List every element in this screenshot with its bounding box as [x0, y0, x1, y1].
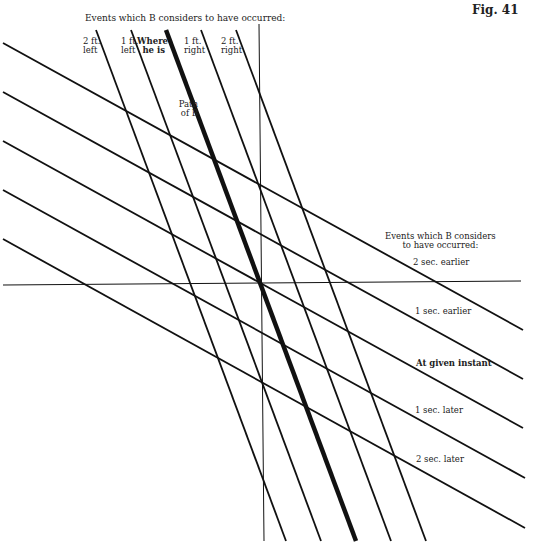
spacetime-diagram-svg: [0, 0, 539, 552]
position-line: [131, 30, 321, 541]
top-header: Events which B considers to have occurre…: [85, 14, 285, 23]
label-at-given-instant: At given instant: [416, 359, 492, 368]
label-2-sec-later: 2 sec. later: [416, 455, 464, 464]
path-of-b-label: Path of B: [170, 100, 198, 118]
label-where-he-is: Where he is: [137, 37, 165, 55]
label-1-sec-earlier: 1 sec. earlier: [415, 307, 471, 316]
right-header: Events which B considers to have occurre…: [385, 232, 496, 250]
figure-label: Fig. 41: [472, 3, 519, 17]
label-1ft-right: 1 ft. right: [184, 37, 205, 55]
simultaneity-line: [3, 239, 525, 528]
label-1-sec-later: 1 sec. later: [415, 406, 463, 415]
label-2ft-left: 2 ft. left: [83, 37, 100, 55]
label-1ft-left: 1 ft. left: [121, 37, 138, 55]
position-line: [201, 30, 391, 541]
label-2ft-right: 2 ft. right: [221, 37, 242, 55]
label-2-sec-earlier: 2 sec. earlier: [413, 258, 469, 267]
